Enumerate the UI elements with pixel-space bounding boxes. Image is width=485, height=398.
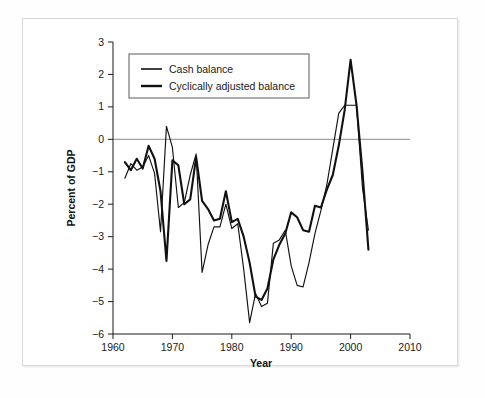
figure-frame bbox=[22, 18, 458, 366]
page-background: 3 2 1 0 −1 −2 −3 −4 −5 −6 1960 1970 1980… bbox=[0, 0, 485, 398]
